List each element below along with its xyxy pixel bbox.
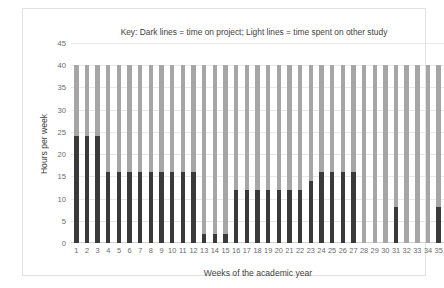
bar-group-week-11 [178, 43, 189, 243]
x-tick-label-1: 1 [74, 246, 78, 255]
x-tick-label-19: 19 [264, 246, 272, 255]
y-tick-label: 5 [62, 216, 66, 225]
bar-group-week-6 [124, 43, 135, 243]
x-tick-label-4: 4 [106, 246, 110, 255]
bar-group-week-25 [327, 43, 338, 243]
bar-group-week-1 [71, 43, 82, 243]
x-tick-label-21: 21 [285, 246, 293, 255]
bar-project-week-2 [85, 136, 89, 243]
bar-project-week-4 [106, 172, 110, 243]
bar-group-week-9 [156, 43, 167, 243]
bar-group-week-2 [82, 43, 93, 243]
bar-project-week-22 [298, 190, 302, 243]
bar-group-week-3 [92, 43, 103, 243]
bar-group-week-32 [401, 43, 412, 243]
bar-other-study-week-30 [383, 65, 387, 243]
x-tick-label-9: 9 [160, 246, 164, 255]
x-tick-label-31: 31 [392, 246, 400, 255]
x-tick-label-7: 7 [138, 246, 142, 255]
x-tick-label-27: 27 [349, 246, 357, 255]
x-tick-label-17: 17 [243, 246, 251, 255]
x-axis-title: Weeks of the academic year [68, 268, 444, 278]
bar-other-study-week-29 [373, 65, 377, 243]
y-tick-label: 40 [58, 61, 66, 70]
x-tick-label-20: 20 [275, 246, 283, 255]
y-tick-label: 15 [58, 172, 66, 181]
bar-project-week-12 [191, 172, 195, 243]
bar-group-week-17 [242, 43, 253, 243]
chart-container: Key: Dark lines = time on project; Light… [22, 8, 426, 276]
bar-other-study-week-14 [213, 65, 217, 243]
bar-project-week-19 [266, 190, 270, 243]
x-tick-label-2: 2 [85, 246, 89, 255]
x-tick-label-5: 5 [117, 246, 121, 255]
bar-project-week-15 [223, 234, 227, 243]
x-tick-label-6: 6 [128, 246, 132, 255]
bar-project-week-18 [255, 190, 259, 243]
bar-other-study-week-15 [223, 65, 227, 243]
bar-project-week-1 [74, 136, 78, 243]
bar-project-week-27 [351, 172, 355, 243]
bar-group-week-28 [359, 43, 370, 243]
bar-group-week-16 [231, 43, 242, 243]
y-tick-label: 0 [62, 239, 66, 248]
x-tick-label-12: 12 [189, 246, 197, 255]
bars-layer [71, 43, 444, 243]
bar-project-week-25 [330, 172, 334, 243]
bar-group-week-20 [273, 43, 284, 243]
bar-group-week-19 [263, 43, 274, 243]
x-tick-label-28: 28 [360, 246, 368, 255]
bar-group-week-10 [167, 43, 178, 243]
bar-group-week-22 [295, 43, 306, 243]
bar-project-week-13 [202, 234, 206, 243]
bar-project-week-8 [149, 172, 153, 243]
bar-other-study-week-34 [426, 65, 430, 243]
y-tick-label: 10 [58, 194, 66, 203]
bar-project-week-7 [138, 172, 142, 243]
bar-project-week-5 [117, 172, 121, 243]
x-tick-label-16: 16 [232, 246, 240, 255]
y-tick-label: 30 [58, 105, 66, 114]
bar-group-week-30 [380, 43, 391, 243]
bar-group-week-18 [252, 43, 263, 243]
x-tick-label-25: 25 [328, 246, 336, 255]
bar-group-week-7 [135, 43, 146, 243]
bar-group-week-31 [391, 43, 402, 243]
x-tick-label-11: 11 [179, 246, 187, 255]
x-tick-label-26: 26 [339, 246, 347, 255]
x-axis-tick-labels: 1234567891011121314151617181920212223242… [71, 246, 444, 258]
x-tick-label-24: 24 [317, 246, 325, 255]
bar-project-week-17 [245, 190, 249, 243]
x-tick-label-30: 30 [381, 246, 389, 255]
y-tick-label: 20 [58, 150, 66, 159]
bar-group-week-13 [199, 43, 210, 243]
x-tick-label-22: 22 [296, 246, 304, 255]
bar-group-week-12 [188, 43, 199, 243]
x-tick-label-10: 10 [168, 246, 176, 255]
bar-project-week-35 [436, 207, 440, 243]
x-tick-label-23: 23 [307, 246, 315, 255]
plot-area: 051015202530354045 [71, 43, 444, 243]
bar-project-week-9 [159, 172, 163, 243]
bar-project-week-14 [213, 234, 217, 243]
bar-project-week-21 [287, 190, 291, 243]
bar-group-week-24 [316, 43, 327, 243]
x-tick-label-33: 33 [413, 246, 421, 255]
bar-group-week-26 [337, 43, 348, 243]
x-tick-label-32: 32 [403, 246, 411, 255]
x-tick-label-8: 8 [149, 246, 153, 255]
y-tick-label: 35 [58, 83, 66, 92]
bar-other-study-week-32 [404, 65, 408, 243]
bar-project-week-3 [95, 136, 99, 243]
bar-project-week-26 [341, 172, 345, 243]
bar-group-week-34 [423, 43, 434, 243]
x-tick-label-3: 3 [96, 246, 100, 255]
y-tick-label: 45 [58, 39, 66, 48]
x-tick-label-18: 18 [253, 246, 261, 255]
bar-other-study-week-13 [202, 65, 206, 243]
bar-group-week-27 [348, 43, 359, 243]
chart-title-key: Key: Dark lines = time on project; Light… [59, 27, 444, 37]
bar-project-week-31 [394, 207, 398, 243]
bar-group-week-8 [146, 43, 157, 243]
bar-group-week-15 [220, 43, 231, 243]
